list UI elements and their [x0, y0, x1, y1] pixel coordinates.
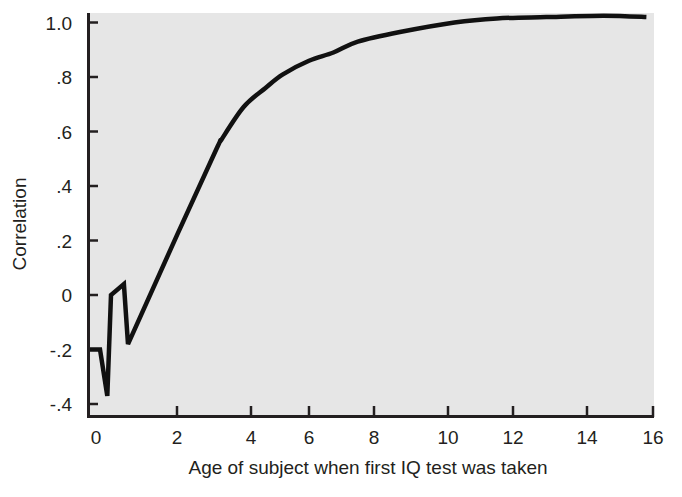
x-tick-label: 14 — [576, 427, 598, 448]
x-tick-label: 12 — [502, 427, 523, 448]
y-tick-label: -.2 — [50, 340, 72, 361]
y-tick-label: .2 — [56, 231, 72, 252]
plot-background — [89, 13, 654, 416]
y-tick-label: .6 — [56, 122, 72, 143]
y-tick-label: 0 — [61, 285, 72, 306]
x-tick-label: 16 — [642, 427, 663, 448]
x-tick-label: 10 — [437, 427, 458, 448]
x-tick-label: 4 — [246, 427, 257, 448]
y-tick-label: .8 — [56, 67, 72, 88]
correlation-chart: 1.0.8.6.4.20-.2-.4 0246810121416 Age of … — [0, 0, 682, 497]
x-tick-label: 6 — [304, 427, 315, 448]
y-axis-title: Correlation — [9, 178, 30, 271]
x-tick-label: 8 — [369, 427, 380, 448]
figure-caption-cutoff — [0, 484, 682, 497]
x-tick-label: 0 — [91, 427, 102, 448]
y-tick-label: .4 — [56, 176, 72, 197]
y-tick-label: 1.0 — [46, 13, 72, 34]
y-tick-label: -.4 — [50, 394, 73, 415]
x-tick-label: 2 — [172, 427, 183, 448]
x-axis-title: Age of subject when first IQ test was ta… — [188, 457, 547, 478]
